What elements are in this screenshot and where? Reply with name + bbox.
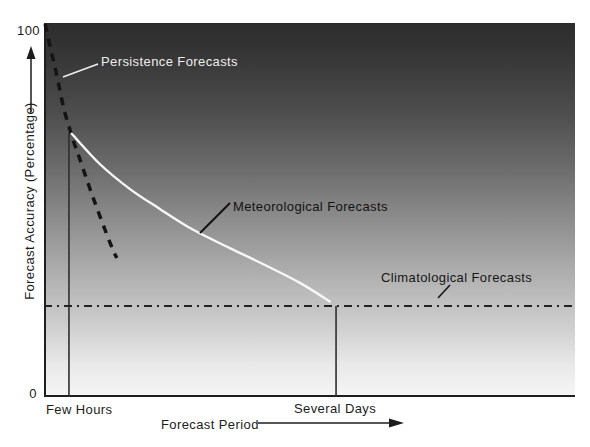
annotation-climatological-forecasts: Climatological Forecasts: [381, 270, 532, 285]
annotation-persistence-forecasts: Persistence Forecasts: [101, 54, 238, 69]
x-axis-label: Forecast Period: [161, 417, 259, 432]
y-tick-100: 100: [12, 23, 40, 38]
y-tick-0: 0: [22, 386, 37, 401]
y-axis-label: Forecast Accuracy (Percentage): [22, 102, 37, 300]
forecast-accuracy-figure: 100 0 Forecast Accuracy (Percentage) Few…: [0, 0, 590, 447]
x-tick-few-hours: Few Hours: [46, 402, 112, 417]
x-axis-arrow-icon: [258, 419, 404, 428]
x-tick-several-days: Several Days: [294, 401, 376, 416]
annotation-meteorological-forecasts: Meteorological Forecasts: [233, 199, 388, 214]
